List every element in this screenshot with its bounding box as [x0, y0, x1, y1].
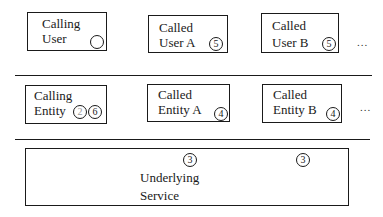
marker-6: 6 — [88, 105, 102, 119]
label-line1: Calling — [34, 88, 72, 103]
called-entity-b-label: CalledEntity B — [273, 87, 317, 117]
ellipsis: ... — [360, 101, 371, 113]
calling-user-box: CallingUser 1 — [27, 12, 107, 51]
called-user-b-box: CalledUser B 5 — [261, 13, 339, 53]
calling-user-label: CallingUser — [42, 16, 80, 46]
label-line2: User B — [272, 35, 308, 50]
calling-entity-box: CallingEntity 2 6 — [25, 85, 107, 124]
label-line2: Service — [140, 188, 179, 203]
label-line2: Entity A — [158, 102, 202, 117]
ellipsis: ... — [357, 36, 368, 48]
called-user-a-box: CalledUser A 5 — [148, 15, 228, 53]
marker-1: 1 — [90, 35, 104, 49]
marker-3: 3 — [296, 153, 310, 167]
called-entity-a-label: CalledEntity A — [158, 87, 202, 117]
called-user-a-label: CalledUser A — [159, 20, 195, 50]
marker-2: 2 — [73, 105, 87, 119]
label-line1: Called — [158, 87, 192, 102]
label-line2: Entity — [34, 103, 66, 118]
calling-entity-label: CallingEntity — [34, 88, 72, 118]
marker-5: 5 — [322, 37, 336, 51]
underlying-service-label: UnderlyingService — [140, 169, 199, 205]
layer-divider-top — [15, 75, 372, 76]
called-user-b-label: CalledUser B — [272, 17, 308, 51]
underlying-service-box: UnderlyingService 3 3 — [25, 148, 349, 206]
label-line1: Called — [273, 87, 307, 102]
layer-divider-bottom — [15, 139, 370, 140]
label-line1: Underlying — [140, 170, 199, 185]
label-line2: User A — [159, 35, 195, 50]
marker-4: 4 — [326, 107, 340, 121]
marker-3: 3 — [183, 153, 197, 167]
label-line2: User — [42, 31, 67, 46]
marker-4: 4 — [214, 107, 228, 121]
marker-5: 5 — [209, 37, 223, 51]
called-entity-a-box: CalledEntity A 4 — [147, 84, 230, 122]
label-line1: Calling — [42, 16, 80, 31]
called-entity-b-box: CalledEntity B 4 — [262, 84, 342, 123]
label-line1: Called — [159, 20, 193, 35]
label-line1: Called — [272, 18, 306, 33]
label-line2: Entity B — [273, 102, 317, 117]
